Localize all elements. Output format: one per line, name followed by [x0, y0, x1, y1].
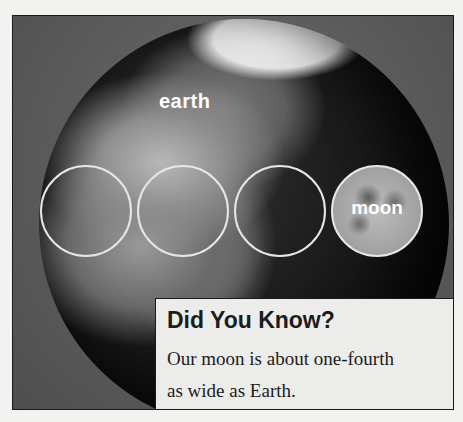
comparison-circle-2	[137, 165, 229, 257]
caption-body: Our moon is about one-fourth as wide as …	[167, 343, 447, 407]
image-frame: earth moon Did You Know? Our moon is abo…	[12, 15, 454, 410]
caption-line-2: as wide as Earth.	[167, 375, 447, 407]
caption-line-1: Our moon is about one-fourth	[167, 343, 447, 375]
moon-circle: moon	[331, 165, 423, 257]
comparison-circle-3	[234, 165, 326, 257]
earth-label: earth	[159, 90, 210, 113]
moon-label: moon	[333, 197, 421, 219]
did-you-know-box: Did You Know? Our moon is about one-four…	[155, 298, 454, 410]
caption-title: Did You Know?	[167, 307, 335, 334]
comparison-circle-1	[40, 165, 132, 257]
